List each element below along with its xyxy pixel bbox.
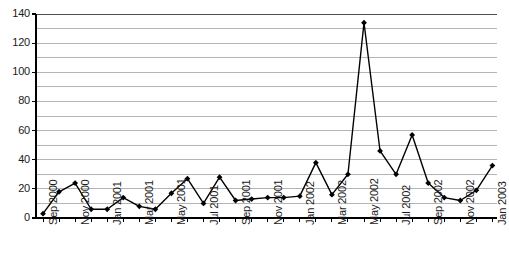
y-axis-tick-label: 40 <box>4 153 30 165</box>
y-axis-tick-label: 140 <box>4 7 30 19</box>
data-point <box>136 203 142 209</box>
x-axis-tick-label: Jan 2003 <box>496 181 508 225</box>
x-axis-tick-label: Nov 2001 <box>272 180 284 226</box>
y-axis-tick-label: 60 <box>4 124 30 136</box>
y-axis-tick-label: 20 <box>4 182 30 194</box>
x-axis-tick-label: Mar 2002 <box>336 180 348 225</box>
x-axis-tick-label: Nov 2002 <box>464 180 476 226</box>
chart-canvas <box>0 0 509 277</box>
data-point <box>297 193 303 199</box>
x-axis-tick-label: Mar 2001 <box>143 180 155 225</box>
line-chart: 020406080100120140Sep 2000Nov 2000Jan 20… <box>0 0 509 277</box>
x-axis-tick-label: Sep 2001 <box>240 180 252 226</box>
data-point <box>313 160 319 166</box>
y-axis-tick-label: 80 <box>4 94 30 106</box>
data-markers <box>40 20 495 217</box>
x-axis-tick-label: May 2002 <box>368 178 380 225</box>
x-axis-tick-label: Jul 2002 <box>400 185 412 225</box>
y-axis-tick-label: 120 <box>4 36 30 48</box>
x-axis-tick-label: Sep 2002 <box>432 180 444 226</box>
data-point <box>361 20 367 26</box>
gridlines <box>36 14 497 218</box>
x-axis-tick-label: Jul 2001 <box>208 185 220 225</box>
x-axis-tick-label: Jan 2001 <box>111 181 123 225</box>
data-point <box>409 132 415 138</box>
y-axis-tick-label: 0 <box>4 211 30 223</box>
data-point <box>265 195 271 201</box>
x-axis-tick-label: May 2001 <box>175 178 187 225</box>
x-axis-tick-label: Nov 2000 <box>79 180 91 226</box>
y-axis-tick-label: 100 <box>4 65 30 77</box>
x-axis-tick-label: Sep 2000 <box>47 180 59 226</box>
x-axis-tick-label: Jan 2002 <box>304 181 316 225</box>
